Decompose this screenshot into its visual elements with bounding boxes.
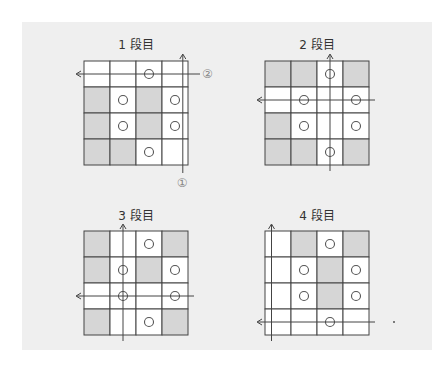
knit-grid [265,61,369,165]
white-cell [136,139,162,165]
gray-cell [84,231,110,257]
block-title: 1 段目 [76,35,196,52]
white-cell [265,257,291,283]
white-cell [162,113,188,139]
gray-cell [136,257,162,283]
gray-cell [84,309,110,335]
white-cell [291,257,317,283]
white-cell [136,309,162,335]
gray-cell [84,139,110,165]
gray-cell [136,87,162,113]
white-cell [291,113,317,139]
block-title: 3 段目 [76,206,196,223]
gray-cell [84,257,110,283]
white-cell [343,283,369,309]
gray-cell [343,61,369,87]
block-title: 4 段目 [257,206,377,223]
gray-cell [265,113,291,139]
white-cell [343,113,369,139]
knit-grid [265,231,369,335]
stray-dot [393,321,395,323]
white-cell [162,257,188,283]
white-cell [162,87,188,113]
gray-cell [317,283,343,309]
knit-grid: ②① [84,61,188,165]
gray-cell [84,113,110,139]
white-cell [317,231,343,257]
gray-cell [291,61,317,87]
gray-cell [317,257,343,283]
white-cell [162,139,188,165]
gray-cell [291,139,317,165]
gray-cell [291,231,317,257]
white-cell [110,87,136,113]
gray-cell [136,113,162,139]
block-title: 2 段目 [257,35,377,52]
white-cell [136,231,162,257]
white-cell [265,283,291,309]
label-2: ② [202,67,213,81]
label-1: ① [177,176,188,190]
gray-cell [343,139,369,165]
white-cell [110,113,136,139]
knit-grid [84,231,188,335]
gray-cell [110,139,136,165]
gray-cell [343,231,369,257]
white-cell [291,283,317,309]
gray-cell [265,61,291,87]
white-cell [343,257,369,283]
gray-cell [84,87,110,113]
white-cell [265,231,291,257]
gray-cell [265,139,291,165]
gray-cell [162,309,188,335]
gray-cell [162,231,188,257]
